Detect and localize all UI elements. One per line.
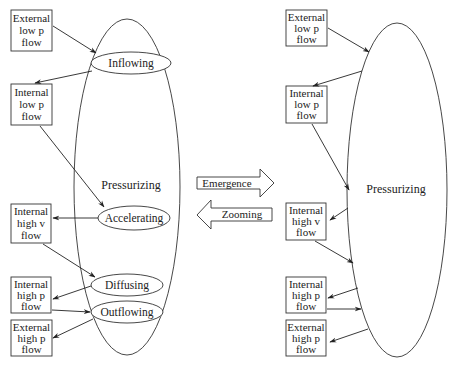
process-diffusing: Diffusing xyxy=(91,274,163,296)
right-box-internal-high-p-flow: Internal high p flow xyxy=(286,277,326,313)
svg-text:Internal: Internal xyxy=(14,205,48,217)
svg-text:flow: flow xyxy=(296,33,316,45)
svg-text:low p: low p xyxy=(19,98,44,110)
svg-text:Emergence: Emergence xyxy=(202,177,251,189)
process-outflowing: Outflowing xyxy=(91,301,163,323)
right-panel: Pressurizing External low p flow Interna… xyxy=(286,10,447,357)
zooming-arrow: Zooming xyxy=(197,200,272,229)
right-arrow-int-high-v-out xyxy=(330,208,348,220)
arrow-int-low-to-accelerating xyxy=(40,126,104,207)
process-inflowing: Inflowing xyxy=(91,52,171,74)
svg-text:Outflowing: Outflowing xyxy=(100,306,153,319)
right-box-external-high-p-flow: External high p flow xyxy=(286,320,326,356)
svg-text:Internal: Internal xyxy=(14,86,48,98)
pressurizing-emergence-diagram: Pressurizing Inflowing Accelerating Diff… xyxy=(0,0,450,365)
svg-text:low p: low p xyxy=(19,24,44,36)
emergence-arrow: Emergence xyxy=(197,169,274,197)
box-internal-high-v-flow: Internal high v flow xyxy=(11,204,51,243)
right-pressurizing-label: Pressurizing xyxy=(366,182,425,196)
box-internal-low-p-flow: Internal low p flow xyxy=(11,84,52,125)
process-accelerating: Accelerating xyxy=(98,206,170,230)
svg-text:flow: flow xyxy=(296,343,316,355)
right-box-internal-high-v-flow: Internal high v flow xyxy=(286,203,326,240)
right-arrow-int-high-v-in xyxy=(315,241,353,263)
svg-text:Diffusing: Diffusing xyxy=(105,279,149,292)
svg-text:Zooming: Zooming xyxy=(222,208,263,220)
box-external-high-p-flow: External high p flow xyxy=(11,320,52,356)
svg-text:flow: flow xyxy=(21,110,41,122)
right-arrow-int-low-out xyxy=(313,71,362,86)
svg-text:flow: flow xyxy=(21,300,41,312)
svg-text:Inflowing: Inflowing xyxy=(108,57,154,70)
svg-text:flow: flow xyxy=(21,343,41,355)
svg-text:flow: flow xyxy=(296,300,316,312)
left-panel: Pressurizing Inflowing Accelerating Diff… xyxy=(11,10,180,356)
arrow-int-high-p-to-outflowing xyxy=(52,310,90,312)
right-box-internal-low-p-flow: Internal low p flow xyxy=(286,86,327,123)
right-box-external-low-p-flow: External low p flow xyxy=(286,10,327,46)
svg-text:flow: flow xyxy=(21,229,41,241)
svg-text:high v: high v xyxy=(17,217,45,229)
box-external-low-p-flow: External low p flow xyxy=(11,10,52,51)
svg-text:flow: flow xyxy=(296,109,316,121)
arrow-outflowing-to-ext-high-p xyxy=(53,319,93,338)
arrow-ext-low-to-inflowing xyxy=(53,26,96,53)
svg-text:flow: flow xyxy=(21,36,41,48)
left-pressurizing-label: Pressurizing xyxy=(101,178,160,192)
right-arrow-ext-low-in xyxy=(328,28,369,52)
svg-text:External: External xyxy=(13,12,50,24)
arrow-int-high-v-to-diffusing xyxy=(43,244,95,277)
right-arrow-int-low-in xyxy=(312,124,349,190)
svg-text:flow: flow xyxy=(296,226,316,238)
right-arrow-ext-high-p-out xyxy=(330,329,368,342)
box-internal-high-p-flow: Internal high p flow xyxy=(11,277,51,313)
right-arrow-int-high-p-out xyxy=(328,288,358,298)
arrow-inflowing-to-int-low xyxy=(35,71,92,83)
svg-text:Accelerating: Accelerating xyxy=(105,212,164,225)
